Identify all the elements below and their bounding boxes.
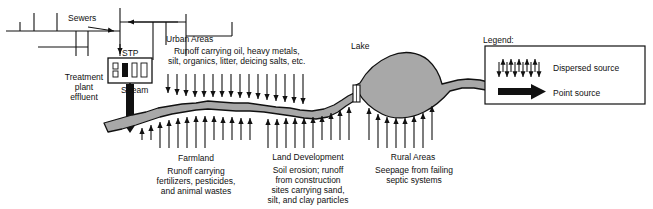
label-farmland: Farmland — [166, 153, 226, 163]
dispersed-arrows-urban — [168, 74, 303, 104]
legend-title: Legend: — [483, 35, 514, 45]
label-farmland-description: Runoff carrying fertilizers, pesticides,… — [140, 166, 252, 196]
label-land-development-description: Soil erosion; runoff from construction s… — [258, 165, 358, 205]
label-rural-areas-description: Seepage from failing septic systems — [364, 165, 464, 185]
label-urban-runoff: Runoff carrying oil, heavy metals, silt,… — [168, 46, 305, 66]
dispersed-arrows-farmland — [142, 116, 250, 148]
label-stp: STP — [122, 48, 139, 58]
water-body — [104, 53, 512, 132]
legend-item-label-dispersed-source: Dispersed source — [553, 63, 619, 73]
label-rural-areas: Rural Areas — [382, 152, 444, 162]
sewer-flow-arrow-right — [88, 27, 114, 31]
label-urban-areas: Urban Areas — [166, 34, 213, 44]
label-treatment-plant-effluent: Treatment plant effluent — [52, 72, 116, 102]
diagram-canvas: Sewers Urban Areas Runoff carrying oil, … — [0, 0, 653, 209]
label-sewers: Sewers — [68, 13, 96, 23]
label-stream: Stream — [121, 85, 148, 95]
label-lake: Lake — [351, 41, 369, 51]
dam-icon — [353, 85, 360, 102]
label-land-development: Land Development — [266, 152, 350, 162]
legend-item-label-point-source: Point source — [553, 88, 600, 98]
